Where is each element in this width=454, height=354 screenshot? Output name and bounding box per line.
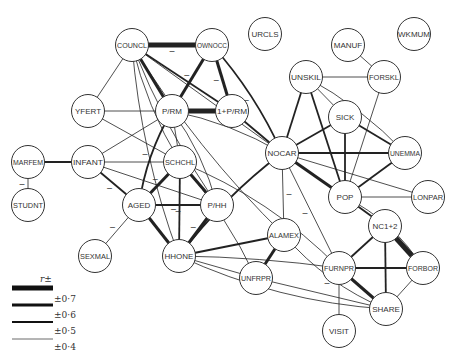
node-label: VISIT <box>329 327 349 336</box>
legend-label-04: ±0·4 <box>54 342 76 352</box>
node-label: FURNPR <box>324 264 354 273</box>
negative-sign: – <box>214 75 219 85</box>
node-label: ALAMEX <box>269 231 300 240</box>
node-yfert: YFERT <box>72 95 105 128</box>
node-label: NC1+2 <box>372 222 398 231</box>
node-councl: COUNCL <box>116 29 149 62</box>
node-label: FORSKL <box>369 73 400 82</box>
negative-sign: – <box>107 183 112 193</box>
negative-sign: – <box>169 46 174 56</box>
node-unemma: UNEMMA <box>389 137 422 170</box>
node-lonpar: LONPAR <box>412 181 445 214</box>
negative-sign: – <box>110 222 115 232</box>
node-label: MANUF <box>334 41 363 50</box>
node-marfem: MARFEM <box>12 146 45 179</box>
negative-sign: – <box>303 208 308 218</box>
node-label: STUDNT <box>13 201 43 210</box>
node-label: HHONE <box>165 252 194 261</box>
node-sexmal: SEXMAL <box>79 240 112 273</box>
legend-label-06: ±0·6 <box>54 310 76 320</box>
node-label: P/HH <box>207 201 226 210</box>
node-furnpr: FURNPR <box>323 252 356 285</box>
node-label: SHARE <box>372 305 400 314</box>
legend-title: r± <box>40 274 52 284</box>
node-label: FORBOR <box>408 264 438 273</box>
node-label: P/RM <box>162 107 182 116</box>
node-label: POP <box>337 193 354 202</box>
node-label: OWNOCC <box>197 41 227 50</box>
node-label: 1+P/RM <box>217 107 247 116</box>
negative-sign: – <box>184 70 189 80</box>
node-label: SCHCHL <box>165 158 195 167</box>
correlation-diagram: ––––––––––––––– COUNCLOWNOCCURCLSMANUFWK… <box>0 0 454 354</box>
negative-sign: – <box>153 174 158 184</box>
node-studnt: STUDNT <box>12 189 45 222</box>
node-label: NOCAR <box>268 149 297 158</box>
node-visit: VISIT <box>323 315 356 348</box>
node-1prm: 1+P/RM <box>216 95 249 128</box>
node-label: YFERT <box>75 107 101 116</box>
node-prm: P/RM <box>156 95 189 128</box>
node-label: COUNCL <box>117 41 147 50</box>
edge-nocar-furnpr <box>282 153 339 268</box>
node-label: INFANT <box>73 158 103 167</box>
node-wkmum: WKMUM <box>398 18 431 51</box>
node-label: LONPAR <box>413 193 443 202</box>
negative-sign: – <box>19 179 24 189</box>
node-label: UNFRPR <box>241 274 271 283</box>
node-nocar: NOCAR <box>266 137 299 170</box>
node-pop: POP <box>329 181 362 214</box>
node-forbor: FORBOR <box>407 252 440 285</box>
node-label: UNEMMA <box>390 149 421 158</box>
edge-layer: ––––––––––––––– <box>19 45 428 331</box>
node-phh: P/HH <box>201 189 234 222</box>
legend-label-07: ±0·7 <box>54 294 76 304</box>
negative-sign: – <box>191 222 196 232</box>
node-label: AGED <box>128 201 151 210</box>
node-hhone: HHONE <box>163 240 196 273</box>
node-label: SEXMAL <box>80 252 110 261</box>
node-label: WKMUM <box>398 30 430 39</box>
node-unfrpr: UNFRPR <box>240 262 273 295</box>
node-unskil: UNSKIL <box>290 61 323 94</box>
node-infant: INFANT <box>72 146 105 179</box>
negative-sign: – <box>143 149 148 159</box>
legend: r± ±0·7 ±0·6 ±0·5 ±0·4 <box>12 274 76 352</box>
node-urcls: URCLS <box>249 18 282 51</box>
node-share: SHARE <box>370 293 403 326</box>
node-label: UNSKIL <box>291 73 322 82</box>
node-forskl: FORSKL <box>368 61 401 94</box>
node-schchl: SCHCHL <box>164 146 197 179</box>
legend-label-05: ±0·5 <box>54 326 76 336</box>
node-aged: AGED <box>123 189 156 222</box>
edge-unskil-pop <box>306 77 345 197</box>
node-label: MARFEM <box>13 158 43 167</box>
negative-sign: – <box>175 206 180 216</box>
negative-sign: – <box>286 189 291 199</box>
node-label: SICK <box>336 113 355 122</box>
node-alamex: ALAMEX <box>268 219 301 252</box>
node-nc12: NC1+2 <box>369 210 402 243</box>
node-sick: SICK <box>329 101 362 134</box>
node-label: URCLS <box>251 30 278 39</box>
node-manuf: MANUF <box>332 29 365 62</box>
node-ownocc: OWNOCC <box>196 29 229 62</box>
